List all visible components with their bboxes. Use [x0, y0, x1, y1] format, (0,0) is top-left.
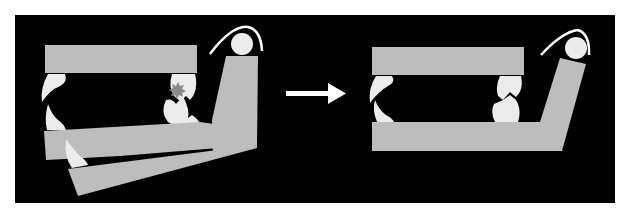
right-jaw-model: [370, 30, 589, 151]
left-jaw-model: [42, 27, 262, 196]
front-lower-tooth-right: [374, 100, 394, 122]
front-lower-tooth-left: [46, 104, 66, 130]
transition-arrow-icon: [286, 83, 346, 104]
back-lower-tooth-right: [492, 95, 519, 122]
front-upper-tooth-right: [370, 76, 394, 103]
upper-jaw-bar-right: [372, 47, 524, 75]
upper-jaw-bar-left: [45, 45, 197, 73]
condyle-right: [565, 37, 587, 59]
ramus-right: [540, 58, 586, 151]
front-upper-tooth-left: [42, 74, 66, 102]
lower-jaw-bar-right: [372, 122, 542, 151]
condyle-left: [231, 33, 253, 55]
jaw-diagram: [0, 0, 627, 212]
